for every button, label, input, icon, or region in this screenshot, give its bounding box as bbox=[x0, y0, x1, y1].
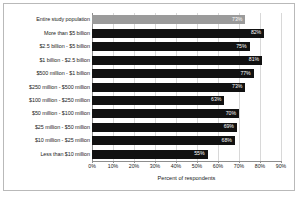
x-axis-tick-mark bbox=[260, 161, 261, 163]
bar: 77% bbox=[92, 69, 254, 78]
bar-value-label: 77% bbox=[240, 71, 250, 76]
gridline bbox=[281, 13, 282, 161]
bar: 70% bbox=[92, 109, 239, 118]
x-axis-tick-label: 80% bbox=[255, 164, 265, 169]
x-axis-tick-label: 30% bbox=[150, 164, 160, 169]
x-axis-tick-mark bbox=[134, 161, 135, 163]
bar-row: 77% bbox=[92, 69, 281, 78]
chart-frame: Entire study populationMore than $5 bill… bbox=[3, 3, 295, 191]
bar: 63% bbox=[92, 96, 224, 105]
bar-value-label: 82% bbox=[251, 31, 261, 36]
bar-row: 55% bbox=[92, 150, 281, 159]
category-label: Less than $10 million bbox=[4, 152, 90, 157]
category-label: $500 million - $1 billion bbox=[4, 71, 90, 76]
bar: 69% bbox=[92, 123, 237, 132]
bar-value-label: 81% bbox=[249, 57, 259, 62]
x-axis-tick-labels: 0%10%20%30%40%50%60%70%80%90% bbox=[92, 164, 281, 173]
x-axis-tick-label: 20% bbox=[129, 164, 139, 169]
x-axis-tick-label: 90% bbox=[276, 164, 286, 169]
bar-row: 82% bbox=[92, 29, 281, 38]
category-label: $10 million - $25 million bbox=[4, 138, 90, 143]
bar-row: 73% bbox=[92, 83, 281, 92]
bar-value-label: 70% bbox=[226, 111, 236, 116]
category-label: $25 million - $50 million bbox=[4, 125, 90, 130]
category-label: $2.5 billion - $5 billion bbox=[4, 44, 90, 49]
bar-value-label: 63% bbox=[211, 98, 221, 103]
x-axis-tick-mark bbox=[197, 161, 198, 163]
x-axis-tick-mark bbox=[176, 161, 177, 163]
category-label: Entire study population bbox=[4, 17, 90, 22]
bar-row: 75% bbox=[92, 42, 281, 51]
bar: 73% bbox=[92, 15, 245, 24]
bar: 55% bbox=[92, 150, 208, 159]
bar-value-label: 69% bbox=[224, 125, 234, 130]
x-axis-tick-label: 60% bbox=[213, 164, 223, 169]
x-axis-title: Percent of respondents bbox=[92, 176, 281, 182]
bar-row: 81% bbox=[92, 56, 281, 65]
bar-value-label: 68% bbox=[222, 138, 232, 143]
x-axis-tick-label: 40% bbox=[171, 164, 181, 169]
category-label: $50 million - $100 million bbox=[4, 111, 90, 116]
x-axis-tick-label: 10% bbox=[108, 164, 118, 169]
bar: 73% bbox=[92, 83, 245, 92]
x-axis-tick-label: 50% bbox=[192, 164, 202, 169]
category-label: $250 million - $500 million bbox=[4, 85, 90, 90]
category-label: $100 million - $250 million bbox=[4, 98, 90, 103]
bar-row: 73% bbox=[92, 15, 281, 24]
x-axis-tick-mark bbox=[239, 161, 240, 163]
bar-value-label: 55% bbox=[194, 152, 204, 157]
x-axis-tick-label: 70% bbox=[234, 164, 244, 169]
bar-row: 70% bbox=[92, 109, 281, 118]
x-axis-tick-label: 0% bbox=[88, 164, 96, 169]
bar: 81% bbox=[92, 56, 262, 65]
bar-value-label: 73% bbox=[232, 17, 242, 22]
x-axis-tick-mark bbox=[155, 161, 156, 163]
bar-row: 69% bbox=[92, 123, 281, 132]
x-axis-tick-mark bbox=[281, 161, 282, 163]
category-label: $1 billion - $2.5 billion bbox=[4, 58, 90, 63]
x-axis-tick-mark bbox=[113, 161, 114, 163]
category-label: More than $5 billion bbox=[4, 31, 90, 36]
bar-value-label: 73% bbox=[232, 84, 242, 89]
bar-row: 68% bbox=[92, 136, 281, 145]
bar-row: 63% bbox=[92, 96, 281, 105]
bar-value-label: 75% bbox=[236, 44, 246, 49]
x-axis-tick-mark bbox=[218, 161, 219, 163]
bar: 75% bbox=[92, 42, 250, 51]
plot-area: 73%82%75%81%77%73%63%70%69%68%55% bbox=[92, 13, 281, 161]
x-axis-line bbox=[92, 161, 281, 162]
bar: 68% bbox=[92, 136, 235, 145]
bar: 82% bbox=[92, 29, 264, 38]
x-axis-tick-mark bbox=[92, 161, 93, 163]
category-axis-labels: Entire study populationMore than $5 bill… bbox=[4, 13, 90, 161]
